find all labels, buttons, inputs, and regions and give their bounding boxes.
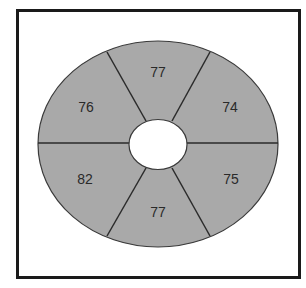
segment-label-lower-right: 75: [223, 171, 239, 187]
ring-diagram: 77 74 75 77 82 76: [0, 0, 306, 288]
segment-label-lower-left: 82: [77, 171, 93, 187]
segment-label-upper-left: 76: [78, 99, 94, 115]
segment-label-top: 77: [150, 64, 166, 80]
segment-label-upper-right: 74: [222, 99, 238, 115]
segment-label-bottom: 77: [150, 204, 166, 220]
inner-hole: [129, 120, 187, 170]
